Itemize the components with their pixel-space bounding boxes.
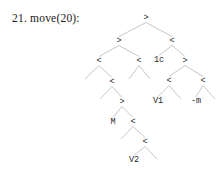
tree-leaf-label: M bbox=[110, 117, 115, 127]
tree-node-label: > bbox=[116, 36, 121, 46]
tree-edge bbox=[196, 86, 203, 97]
tree-node-label: > bbox=[143, 13, 148, 23]
derivation-tree: >><<<1c><<<V1-m>M<<V2 bbox=[0, 0, 222, 170]
tree-edge bbox=[185, 66, 203, 77]
tree-node-label: < bbox=[200, 76, 205, 86]
tree-leaf-label: V1 bbox=[153, 96, 163, 106]
tree-edge bbox=[99, 46, 119, 57]
tree-edge bbox=[169, 86, 181, 100]
figure-canvas: 21. move(20): >><<<1c><<<V1-m>M<<V2 bbox=[0, 0, 222, 170]
tree-edge-layer bbox=[85, 23, 215, 160]
tree-edge bbox=[159, 46, 172, 56]
tree-node-label: < bbox=[166, 76, 171, 86]
tree-leaf-label: -m bbox=[191, 96, 201, 106]
tree-edge bbox=[85, 66, 99, 80]
tree-edge bbox=[113, 107, 122, 118]
tree-node-label: > bbox=[182, 56, 187, 66]
tree-edge bbox=[100, 87, 112, 100]
tree-node-label: < bbox=[109, 77, 114, 87]
tree-node-label: < bbox=[136, 56, 141, 66]
tree-edge bbox=[134, 147, 145, 156]
tree-edge bbox=[112, 87, 122, 98]
tree-node-layer: >><<<1c><<<V1-m>M<<V2 bbox=[96, 13, 205, 165]
tree-edge bbox=[129, 66, 139, 80]
tree-edge bbox=[146, 23, 172, 37]
tree-edge bbox=[203, 86, 215, 100]
tree-leaf-label: V2 bbox=[129, 155, 139, 165]
tree-edge bbox=[119, 23, 146, 37]
tree-edge bbox=[121, 127, 133, 140]
tree-node-label: < bbox=[96, 56, 101, 66]
tree-edge bbox=[99, 66, 112, 78]
tree-node-label: > bbox=[119, 97, 124, 107]
tree-leaf-label: 1c bbox=[154, 55, 164, 65]
tree-edge bbox=[119, 46, 139, 57]
tree-edge bbox=[172, 46, 185, 57]
tree-node-label: < bbox=[142, 137, 147, 147]
tree-edge bbox=[133, 127, 145, 138]
tree-edge bbox=[122, 107, 133, 118]
tree-edge bbox=[139, 66, 150, 80]
tree-node-label: < bbox=[130, 117, 135, 127]
tree-edge bbox=[169, 66, 185, 77]
tree-edge bbox=[158, 86, 169, 97]
tree-edge bbox=[145, 147, 157, 160]
tree-node-label: < bbox=[169, 36, 174, 46]
